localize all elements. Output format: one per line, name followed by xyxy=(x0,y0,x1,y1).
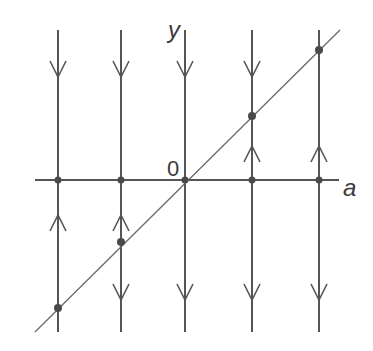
axis-dot xyxy=(316,177,323,184)
y-axis-label: y xyxy=(166,16,182,43)
axis-dot xyxy=(55,177,62,184)
diagonal-dot xyxy=(117,238,125,246)
diagonal-dot xyxy=(248,112,256,120)
axis-dot xyxy=(118,177,125,184)
a-axis-label: a xyxy=(343,174,356,201)
diagonal-dot xyxy=(315,46,323,54)
phase-diagram: y 0 a xyxy=(0,0,373,351)
diagonal-dot xyxy=(54,304,62,312)
axis-dot xyxy=(249,177,256,184)
origin-label: 0 xyxy=(167,156,179,181)
axis-dot xyxy=(182,177,189,184)
